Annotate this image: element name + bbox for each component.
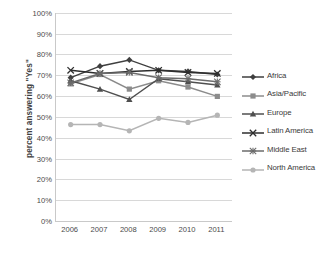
data-point-marker-asterisk	[185, 75, 191, 81]
legend-item-latin-america[interactable]: Latin America	[241, 122, 326, 141]
y-axis-tick-label: 50%	[37, 112, 52, 121]
data-point-marker-circle	[68, 122, 73, 127]
data-point-marker-square	[215, 93, 220, 98]
x-axis-tick-label: 2007	[91, 225, 108, 234]
data-point-marker-square	[127, 86, 132, 91]
series-layer	[56, 13, 232, 222]
y-axis-tick-label: 60%	[37, 92, 52, 101]
data-point-marker-asterisk	[155, 74, 161, 80]
data-point-marker-square	[185, 84, 190, 89]
legend-item-africa[interactable]: Africa	[241, 66, 326, 85]
legend-item-middle-east[interactable]: Middle East	[241, 140, 326, 159]
data-point-marker-asterisk	[97, 70, 103, 76]
data-point-marker-asterisk	[67, 79, 73, 85]
data-point-marker-circle	[127, 128, 132, 133]
legend-label: Middle East	[267, 145, 307, 154]
legend-marker-circle-icon	[241, 162, 265, 174]
y-axis-tick-label: 80%	[37, 50, 52, 59]
legend-label: Latin America	[267, 126, 313, 135]
legend-label: Africa	[267, 71, 286, 80]
legend-item-north-america[interactable]: North America	[241, 159, 326, 178]
y-axis-tick-label: 70%	[37, 71, 52, 80]
x-axis-tick-label: 2008	[120, 225, 137, 234]
x-axis-tick-label: 2010	[179, 225, 196, 234]
y-axis-tick-label: 100%	[33, 8, 52, 17]
data-point-marker-asterisk	[250, 148, 256, 154]
data-point-marker-diamond	[185, 68, 191, 74]
data-point-marker-circle	[215, 112, 220, 117]
series-line	[71, 115, 218, 131]
x-axis-tick-labels: 200620072008200920102011	[55, 225, 231, 239]
data-point-marker-asterisk	[214, 78, 220, 84]
data-point-marker-diamond	[126, 57, 132, 63]
y-axis-tick-label: 0%	[41, 217, 52, 226]
data-point-marker-circle	[250, 167, 255, 172]
legend-marker-diamond-icon	[241, 69, 265, 81]
legend-item-europe[interactable]: Europe	[241, 103, 326, 122]
data-point-marker-diamond	[97, 63, 103, 69]
legend-label: Europe	[267, 108, 292, 117]
y-axis-tick-label: 20%	[37, 175, 52, 184]
data-point-marker-diamond	[214, 71, 220, 77]
legend-item-asia-pacific[interactable]: Asia/Pacific	[241, 85, 326, 104]
data-point-marker-diamond	[250, 74, 256, 80]
y-axis-tick-labels: 0%10%20%30%40%50%60%70%80%90%100%	[18, 13, 52, 222]
y-axis-tick-label: 10%	[37, 196, 52, 205]
legend-marker-square-icon	[241, 88, 265, 100]
legend-marker-cross-icon	[241, 125, 265, 137]
x-axis-tick-label: 2006	[61, 225, 78, 234]
data-point-marker-circle	[156, 115, 161, 120]
legend: AfricaAsia/PacificEuropeLatin AmericaMid…	[241, 66, 326, 177]
data-point-marker-square	[250, 93, 255, 98]
x-axis-tick-label: 2011	[208, 225, 224, 234]
series-line	[71, 74, 218, 96]
data-point-marker-circle	[185, 120, 190, 125]
y-axis-tick-label: 40%	[37, 133, 52, 142]
data-point-marker-circle	[97, 122, 102, 127]
y-axis-tick-label: 30%	[37, 154, 52, 163]
legend-label: Asia/Pacific	[267, 89, 306, 98]
x-axis-tick-label: 2009	[149, 225, 166, 234]
legend-marker-triangle-icon	[241, 106, 265, 118]
legend-label: North America	[267, 163, 315, 172]
plot-area	[55, 13, 232, 223]
legend-marker-asterisk-icon	[241, 143, 265, 155]
series-north-america	[68, 112, 220, 133]
y-axis-tick-label: 90%	[37, 29, 52, 38]
data-point-marker-asterisk	[126, 69, 132, 75]
line-chart: percent answering "Yes" 0%10%20%30%40%50…	[0, 0, 326, 258]
